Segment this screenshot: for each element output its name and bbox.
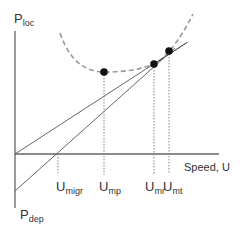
label-umt: Umt [163,179,183,196]
label-speed: Speed, U [184,161,230,173]
point-umt [165,47,173,55]
label-pdep: Pdep [20,207,44,224]
label-umr: Umr [145,179,165,196]
point-umr [150,60,158,68]
point-ump [100,68,108,76]
tangent-line-pdep [15,48,175,191]
label-ploc: Ploc [14,11,35,28]
label-umigr: Umigr [56,179,83,196]
label-ump: Ump [99,179,121,196]
power-curve [60,14,193,72]
flight-power-diagram: Ploc Pdep Speed, U Umigr Ump Umr Umt [0,0,243,228]
